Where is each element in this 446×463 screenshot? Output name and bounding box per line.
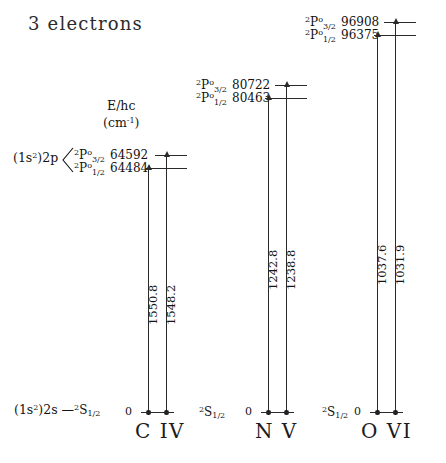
civ-energy-lower: 64484 xyxy=(110,161,148,175)
nv-zero-energy-label: 0 xyxy=(245,405,252,418)
civ-energy-upper: 64592 xyxy=(110,148,148,162)
nv-arrow-head-1242 xyxy=(266,94,272,100)
ovi-term-lower: 2Po1/2 xyxy=(305,28,336,44)
nv-level-line-upper xyxy=(275,85,307,86)
ovi-level-line-upper xyxy=(384,22,416,23)
ground-config-label: (1s2)2s —2S1/2 xyxy=(14,402,100,418)
ovi-ground-level-line xyxy=(370,412,403,413)
brace-icon xyxy=(60,147,74,175)
ovi-ground-term: 2S1/2 xyxy=(322,405,348,421)
energy-axis-caption: E/hc (cm-1) xyxy=(103,98,139,130)
civ-ground-level-line xyxy=(141,412,174,413)
nv-energy-upper: 80722 xyxy=(232,78,270,92)
civ-wavelength-1550: 1550.8 xyxy=(146,285,160,325)
ion-name-nv: N V xyxy=(255,419,298,443)
ovi-arrow-shaft-1031 xyxy=(395,24,396,413)
ion-name-civ: C IV xyxy=(135,419,185,443)
ovi-zero-energy-label: 0 xyxy=(354,405,361,418)
ovi-arrow-shaft-1037 xyxy=(377,37,378,413)
axis-caption-line2: (cm-1) xyxy=(103,113,139,130)
nv-term-lower: 2Po1/2 xyxy=(196,91,227,107)
nv-ground-level-line xyxy=(261,412,294,413)
ion-name-ovi: O VI xyxy=(361,419,412,443)
nv-ground-term: 2S1/2 xyxy=(199,405,225,421)
ovi-wavelength-1031: 1031.9 xyxy=(393,245,407,285)
civ-level-line-upper xyxy=(155,155,187,156)
diagram-title: 3 electrons xyxy=(28,13,143,34)
nv-wavelength-1238: 1238.8 xyxy=(284,250,298,290)
excited-config-label: (1s2)2p xyxy=(13,150,58,165)
ovi-arrow-head-1031 xyxy=(393,18,399,24)
civ-wavelength-1548: 1548.2 xyxy=(164,285,178,325)
ovi-wavelength-1037: 1037.6 xyxy=(375,245,389,285)
ovi-energy-upper: 96908 xyxy=(341,15,379,29)
nv-wavelength-1242: 1242.8 xyxy=(266,250,280,290)
energy-level-diagram: 3 electrons E/hc (cm-1) (1s2)2p 2Po3/2 2… xyxy=(0,0,446,463)
civ-zero-energy-label: 0 xyxy=(125,405,132,418)
civ-arrow-head-1550 xyxy=(146,164,152,170)
civ-arrow-head-1548 xyxy=(164,151,170,157)
axis-caption-line1: E/hc xyxy=(103,98,139,113)
civ-term-lower: 2Po1/2 xyxy=(74,161,105,177)
nv-arrow-head-1238 xyxy=(284,81,290,87)
ovi-arrow-head-1037 xyxy=(375,31,381,37)
